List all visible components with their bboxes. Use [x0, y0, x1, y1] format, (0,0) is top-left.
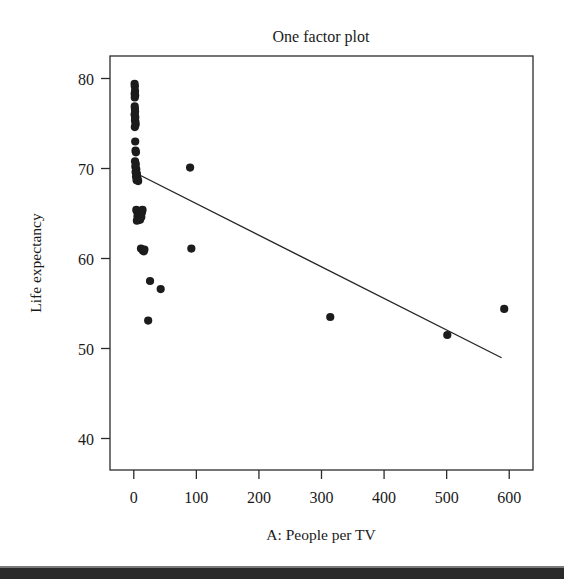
- page-bottom-bar: [0, 568, 564, 579]
- x-tick-label: 600: [497, 489, 521, 506]
- data-point: [131, 93, 139, 101]
- y-tick-label: 50: [78, 341, 94, 358]
- data-point: [443, 331, 451, 339]
- data-point: [140, 247, 148, 255]
- x-tick-label: 200: [247, 489, 271, 506]
- data-point: [133, 217, 141, 225]
- y-tick-label: 80: [78, 71, 94, 88]
- data-point: [146, 277, 154, 285]
- x-axis-label: A: People per TV: [266, 526, 376, 543]
- y-tick-label: 40: [78, 431, 94, 448]
- one-factor-plot-chart: One factor plot 4050607080 0100200300400…: [0, 0, 564, 579]
- data-point: [500, 305, 508, 313]
- y-tick-label: 60: [78, 251, 94, 268]
- x-tick-label: 0: [130, 489, 138, 506]
- x-tick-label: 300: [310, 489, 334, 506]
- chart-title: One factor plot: [273, 28, 370, 46]
- x-tick-label: 500: [435, 489, 459, 506]
- data-point: [187, 245, 195, 253]
- x-tick-label: 400: [372, 489, 396, 506]
- data-point: [131, 123, 139, 131]
- data-point: [144, 317, 152, 325]
- data-point: [186, 164, 194, 172]
- data-point: [326, 313, 334, 321]
- data-point: [132, 148, 140, 156]
- data-point: [138, 206, 146, 214]
- figure-container: One factor plot 4050607080 0100200300400…: [0, 0, 564, 579]
- data-point: [131, 137, 139, 145]
- y-tick-label: 70: [78, 161, 94, 178]
- x-tick-label: 100: [184, 489, 208, 506]
- data-point: [134, 177, 142, 185]
- data-point: [157, 285, 165, 293]
- y-axis-label: Life expectancy: [27, 213, 44, 313]
